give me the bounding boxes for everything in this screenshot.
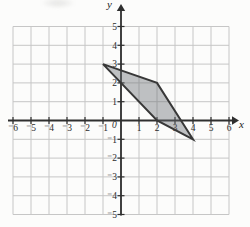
x-tick-label: ⁻6 <box>8 123 18 133</box>
x-tick-label: ⁻3 <box>62 123 72 133</box>
origin-label: 0 <box>112 121 117 131</box>
y-axis-arrow-icon <box>117 4 125 11</box>
x-axis-label: x <box>239 119 244 130</box>
coordinate-plane-plot: ⁻6⁻5⁻4⁻3⁻2⁻112345654321⁻1⁻2⁻3⁻4⁻5 <box>0 0 250 227</box>
x-axis-arrow-icon <box>232 116 239 124</box>
y-tick-label: ⁻4 <box>107 191 117 201</box>
y-axis-label: y <box>107 0 112 10</box>
y-tick-label: ⁻2 <box>107 153 117 163</box>
x-tick-label: 4 <box>191 123 196 133</box>
y-tick-label: 5 <box>112 22 117 32</box>
y-tick-label: 1 <box>112 97 117 107</box>
x-tick-label: ⁻5 <box>26 123 36 133</box>
x-tick-label: ⁻2 <box>80 123 90 133</box>
y-tick-label: ⁻1 <box>107 135 117 145</box>
y-tick-label: ⁻5 <box>107 210 117 220</box>
x-tick-label: 6 <box>227 123 232 133</box>
x-tick-label: 5 <box>209 123 214 133</box>
x-tick-label: ⁻1 <box>98 123 108 133</box>
x-tick-label: 1 <box>137 123 142 133</box>
x-tick-label: 2 <box>155 123 160 133</box>
x-tick-label: ⁻4 <box>44 123 54 133</box>
coordinate-plane-figure: ⁻6⁻5⁻4⁻3⁻2⁻112345654321⁻1⁻2⁻3⁻4⁻5 y x 0 <box>0 0 250 227</box>
y-tick-label: ⁻3 <box>107 172 117 182</box>
y-tick-label: 4 <box>112 41 117 51</box>
